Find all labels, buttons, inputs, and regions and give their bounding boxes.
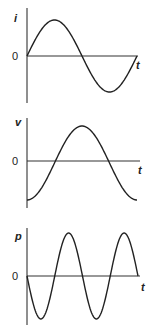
x-axis-label: t	[138, 164, 143, 176]
panel-voltage: v 0 t	[12, 116, 143, 208]
panel-current: i 0 t	[12, 8, 141, 103]
waveform-diagram: i 0 t v 0 t p 0 t	[0, 0, 154, 336]
x-axis-label: t	[136, 59, 141, 71]
zero-label: 0	[12, 50, 18, 62]
x-axis-label: t	[141, 281, 146, 293]
y-axis-label: p	[14, 230, 22, 242]
zero-label: 0	[12, 155, 18, 167]
zero-label: 0	[12, 270, 18, 282]
y-axis-label: v	[15, 116, 22, 128]
voltage-curve	[27, 126, 137, 200]
y-axis-label: i	[14, 12, 18, 24]
panel-power: p 0 t	[12, 228, 146, 325]
